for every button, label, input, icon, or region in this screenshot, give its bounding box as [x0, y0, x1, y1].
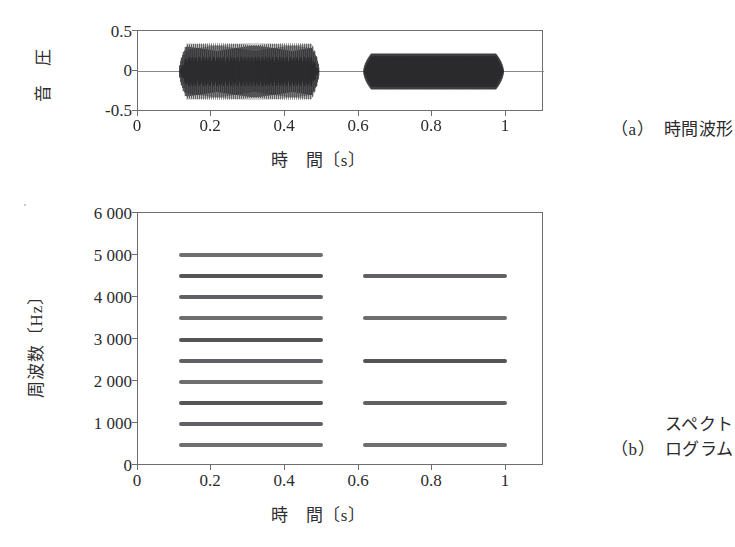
harmonic-line: [179, 443, 323, 447]
spectrogram-xtick-5: 1: [501, 472, 510, 489]
harmonic-line: [363, 443, 507, 447]
scan-speck: [24, 204, 26, 206]
spectrogram-xtick-mark-2: [284, 465, 285, 470]
spectrogram-xtick-mark-5: [505, 465, 506, 470]
waveform-yaxis-title: 音 圧: [29, 40, 54, 110]
caption-b-text: スペクトログラム: [665, 412, 734, 462]
plot-frame-spectrogram: [137, 212, 543, 465]
spectrogram-ytick-mark-3: [132, 338, 137, 339]
spectrogram-xtick-mark-0: [137, 465, 138, 470]
spectrogram-ytick-1: 5 000: [50, 247, 132, 264]
spectrogram-yaxis-title: 周波数〔Hz〕: [22, 278, 47, 408]
spectrogram-xtick-mark-3: [358, 465, 359, 470]
spectrogram-xtick-3: 0.6: [347, 472, 368, 489]
caption-b-gap: [647, 440, 665, 459]
caption-a-gap: [646, 120, 664, 139]
figure-root: 0.5 0 -0.5 0 0.2 0.4 0.6 0.8 1 時 間〔s〕 音 …: [0, 0, 735, 547]
spectrogram-ytick-mark-0: [132, 212, 137, 213]
spectrogram-ytick-mark-5: [132, 422, 137, 423]
spectrogram-xtick-1: 0.2: [199, 472, 220, 489]
caption-a-text: 時間波形: [664, 117, 734, 142]
plot-frame-waveform: [137, 30, 543, 111]
harmonic-line: [179, 359, 323, 363]
caption-a-tag: （a）: [611, 120, 646, 139]
harmonic-line: [179, 316, 323, 320]
waveform-xaxis-title: 時 間〔s〕: [271, 146, 366, 171]
harmonic-line: [179, 274, 323, 278]
waveform-ytick-2: -0.5: [80, 102, 132, 119]
waveform-ytick-mark-1: [132, 70, 137, 71]
harmonic-line: [179, 380, 323, 384]
spectrogram-xtick-mark-1: [210, 465, 211, 470]
harmonic-line: [363, 359, 507, 363]
spectrogram-ytick-0: 6 000: [50, 205, 132, 222]
waveform-xtick-2: 0.4: [273, 117, 294, 134]
caption-panel-b: （b） スペクトログラム: [592, 387, 734, 487]
spectrogram-ytick-mark-2: [132, 296, 137, 297]
harmonic-line: [179, 401, 323, 405]
spectrogram-xtick-0: 0: [133, 472, 142, 489]
spectrogram-ytick-2: 4 000: [50, 289, 132, 306]
waveform-xtick-4: 0.8: [420, 117, 441, 134]
spectrogram-xtick-mark-4: [431, 465, 432, 470]
caption-panel-a: （a） 時間波形: [592, 92, 734, 167]
caption-b-line-1: スペクト: [665, 412, 734, 437]
spectrogram-xaxis-title: 時 間〔s〕: [271, 501, 366, 526]
waveform-ytick-0: 0.5: [88, 23, 132, 40]
waveform-xtick-3: 0.6: [347, 117, 368, 134]
harmonic-line: [179, 253, 323, 257]
caption-b-tag: （b）: [611, 440, 647, 459]
harmonic-line: [363, 401, 507, 405]
waveform-xtick-0: 0: [133, 117, 142, 134]
harmonic-line: [363, 316, 507, 320]
spectrogram-ytick-4: 2 000: [50, 373, 132, 390]
spectrogram-ytick-5: 1 000: [50, 415, 132, 432]
waveform-trace: [138, 31, 544, 112]
caption-b-line-2: ログラム: [665, 437, 734, 462]
harmonic-line: [363, 274, 507, 278]
harmonic-line: [179, 422, 323, 426]
waveform-ytick-mark-0: [132, 30, 137, 31]
spectrogram-ytick-6: 0: [50, 457, 132, 474]
spectrogram-ytick-3: 3 000: [50, 331, 132, 348]
waveform-ytick-1: 0: [88, 62, 132, 79]
harmonic-line: [179, 295, 323, 299]
spectrogram-ytick-mark-1: [132, 254, 137, 255]
spectrogram-xtick-4: 0.8: [420, 472, 441, 489]
waveform-xtick-1: 0.2: [199, 117, 220, 134]
harmonic-line-layer: [138, 213, 544, 466]
waveform-xtick-5: 1: [501, 117, 510, 134]
spectrogram-ytick-mark-4: [132, 380, 137, 381]
spectrogram-xtick-2: 0.4: [273, 472, 294, 489]
harmonic-line: [179, 338, 323, 342]
